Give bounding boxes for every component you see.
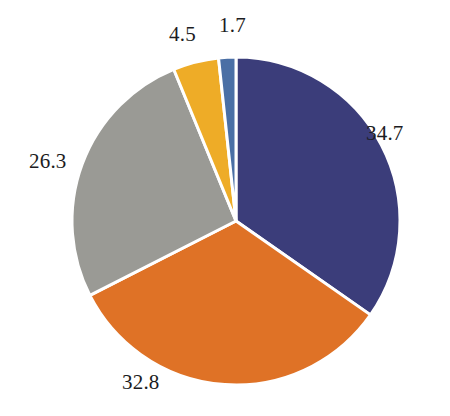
- pie-label-32-8: 32.8: [122, 372, 160, 393]
- pie-label-1-7: 1.7: [219, 15, 246, 36]
- pie-label-34-7: 34.7: [366, 123, 404, 144]
- pie-chart-svg: [0, 0, 450, 416]
- pie-label-26-3: 26.3: [29, 151, 67, 172]
- pie-label-4-5: 4.5: [169, 24, 196, 45]
- pie-chart: 34.7 32.8 26.3 4.5 1.7: [0, 0, 450, 416]
- pie-slices-group: [72, 57, 400, 385]
